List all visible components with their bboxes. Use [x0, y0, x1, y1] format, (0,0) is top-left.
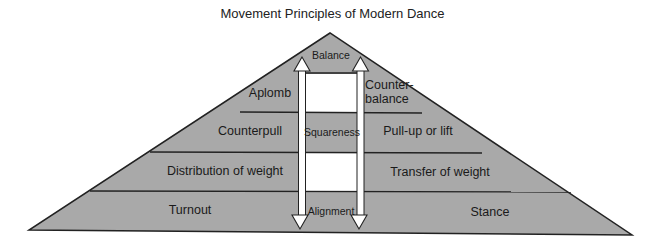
label-counter-balance-line1: Counter- [365, 79, 414, 93]
label-alignment: Alignment [305, 206, 357, 218]
label-counter-balance-line2: balance [365, 93, 414, 107]
divider-2 [240, 112, 422, 113]
label-aplomb: Aplomb [240, 87, 300, 101]
label-distribution-of-weight: Distribution of weight [150, 165, 300, 179]
label-counter-balance: Counter- balance [365, 79, 414, 107]
pyramid-diagram: Movement Principles of Modern Dance Bala… [0, 0, 661, 248]
center-cell-level2 [302, 74, 359, 112]
label-squareness: Squareness [304, 127, 358, 139]
center-cell-level4 [302, 153, 359, 192]
label-transfer-of-weight: Transfer of weight [370, 166, 510, 180]
label-stance: Stance [450, 206, 530, 220]
label-turnout: Turnout [150, 204, 230, 218]
label-pull-up-or-lift: Pull-up or lift [368, 125, 468, 139]
label-counterpull: Counterpull [200, 125, 300, 139]
label-balance: Balance [305, 50, 357, 62]
